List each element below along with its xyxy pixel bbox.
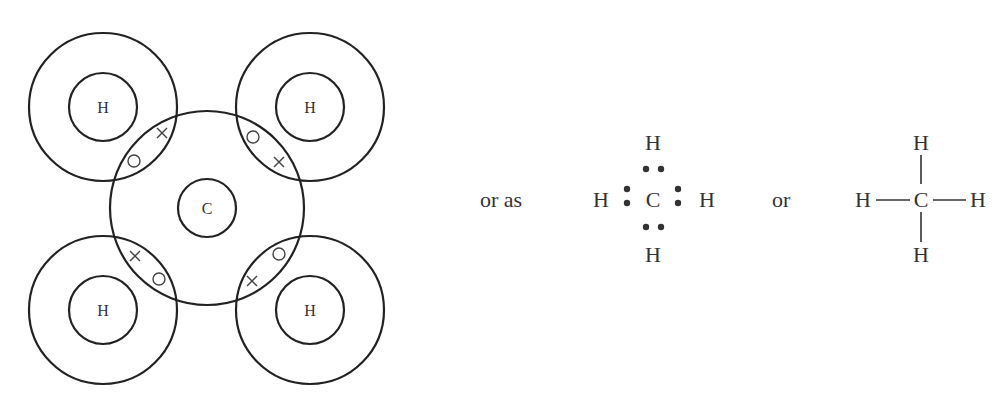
circle-electron-icon xyxy=(273,248,285,260)
lewis-h-bottom: H xyxy=(645,242,661,267)
lewis-h-left: H xyxy=(593,187,609,212)
cross-electron-icon xyxy=(247,276,257,286)
structural-h-top: H xyxy=(913,130,929,155)
structural-h-right: H xyxy=(970,187,986,212)
connector-or-as: or as xyxy=(480,187,522,212)
h-top-right-label: H xyxy=(304,99,316,116)
electron-pair-top-icon xyxy=(643,166,664,172)
electron-pair-right-icon xyxy=(675,186,681,206)
h-bottom-left-label: H xyxy=(97,302,109,319)
structural-c: C xyxy=(914,187,929,212)
structural-formula: H H H C H xyxy=(855,130,986,267)
cross-electron-icon xyxy=(157,128,167,138)
lewis-structure: H H H C H xyxy=(593,130,715,267)
electron-pair-bottom-icon xyxy=(643,224,664,230)
cross-electron-icon xyxy=(274,157,284,167)
c-label: C xyxy=(202,200,213,217)
h-bottom-right-label: H xyxy=(304,302,316,319)
orbital-model: H H H H C xyxy=(29,33,384,384)
circle-electron-icon xyxy=(247,131,259,143)
lewis-c: C xyxy=(646,187,661,212)
electron-pair-left-icon xyxy=(624,186,630,206)
lewis-h-right: H xyxy=(699,187,715,212)
circle-electron-icon xyxy=(153,273,165,285)
connector-or: or xyxy=(772,187,791,212)
cross-electron-icon xyxy=(130,251,140,261)
structural-h-left: H xyxy=(855,187,871,212)
lewis-h-top: H xyxy=(645,130,661,155)
h-top-left-label: H xyxy=(97,99,109,116)
structural-h-bottom: H xyxy=(913,242,929,267)
methane-diagram: H H H H C or as H H H C H xyxy=(0,0,1000,419)
circle-electron-icon xyxy=(128,155,140,167)
